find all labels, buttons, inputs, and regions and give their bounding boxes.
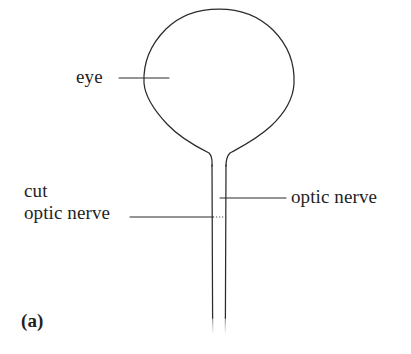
label-optic-nerve: optic nerve [291,186,377,208]
figure-panel-a: eye cut optic nerve optic nerve (a) [0,0,411,354]
eye-outline [144,9,294,166]
eye-optic-nerve-diagram [0,0,411,354]
label-eye: eye [76,66,103,88]
label-cut-line1: cut [24,180,110,202]
optic-nerve-right-wall [225,165,226,318]
label-cut-line2: optic nerve [24,202,110,224]
optic-nerve-left-wall [212,165,213,318]
label-cut-optic-nerve: cut optic nerve [24,180,110,224]
panel-label: (a) [21,310,43,332]
